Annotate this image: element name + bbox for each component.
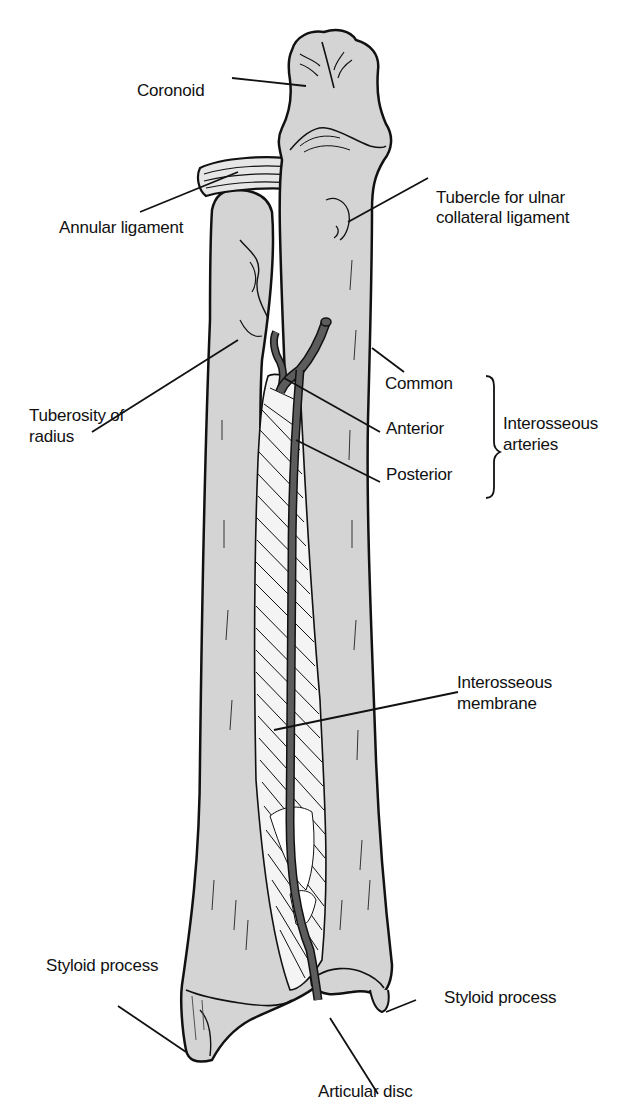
- label-tuberosity-line2: radius: [29, 427, 74, 447]
- label-articular-disc: Articular disc: [318, 1082, 413, 1102]
- label-tuberosity-line1: Tuberosity of: [29, 406, 124, 426]
- label-coronoid: Coronoid: [137, 81, 204, 101]
- label-tubercle-line1: Tubercle for ulnar: [436, 188, 565, 208]
- label-styloid-left: Styloid process: [46, 956, 158, 976]
- label-styloid-right: Styloid process: [444, 988, 556, 1008]
- label-membrane-line2: membrane: [457, 694, 537, 714]
- label-common: Common: [385, 374, 453, 394]
- label-tubercle-line2: collateral ligament: [436, 208, 569, 228]
- label-annular-ligament: Annular ligament: [59, 218, 183, 238]
- label-interosseous-arteries-line1: Interosseous: [503, 414, 598, 434]
- label-interosseous-arteries-line2: arteries: [503, 435, 558, 455]
- forearm-bones-illustration: [0, 0, 637, 1114]
- label-anterior: Anterior: [386, 419, 444, 439]
- label-membrane-line1: Interosseous: [457, 673, 552, 693]
- label-posterior: Posterior: [386, 465, 452, 485]
